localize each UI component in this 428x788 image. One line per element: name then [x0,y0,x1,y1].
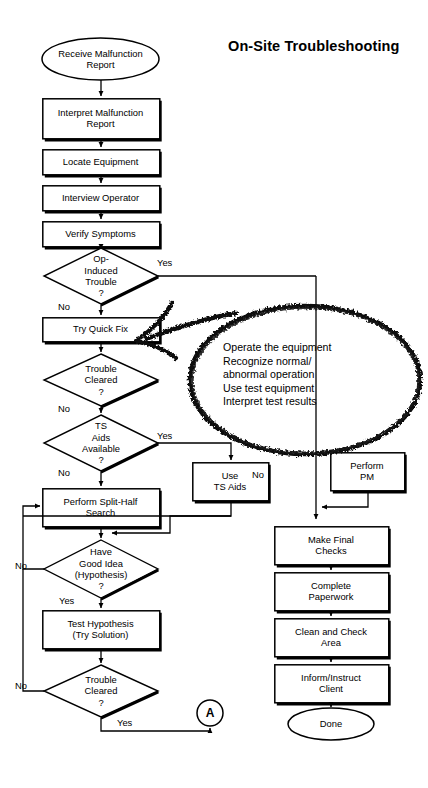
node-make-final-checks [275,527,390,567]
edge-label-op-yes: Yes [157,258,172,268]
edge-label-cleared2-no: No [15,681,27,691]
node-verify [43,222,161,249]
edge-label-goodidea-no: No [15,561,27,571]
node-start [42,38,159,80]
flowchart-canvas: On-Site Troubleshooting [0,0,428,788]
node-complete-paperwork [275,573,390,613]
node-have-good-idea [44,540,158,599]
node-ts-aids-available [44,415,158,472]
node-interpret [43,99,161,141]
node-inform-instruct-client [275,665,390,705]
node-clean-and-check-area [275,619,390,659]
node-trouble-cleared-2 [44,665,158,718]
node-trouble-cleared-1 [44,354,158,407]
node-perform-pm [331,453,406,493]
edge-label-tsaids-yes: Yes [157,431,172,441]
edge-label-goodidea-yes: Yes [59,596,74,606]
edge-label-cleared2-yes: Yes [117,718,132,728]
node-op-induced-trouble [44,248,158,305]
node-locate [43,150,161,177]
node-done [288,708,374,740]
edge-label-op-no: No [58,302,70,312]
edge-label-pm-no: No [252,470,264,480]
edge-label-tsaids-no: No [58,468,70,478]
node-perform-split-half-search [43,489,161,529]
edge-label-cleared1-no: No [58,404,70,414]
node-interview [43,186,161,213]
node-try-quick-fix [43,318,161,344]
handwritten-note-text: Operate the equipment Recognize normal/ … [223,341,413,409]
connector-a-label: A [200,706,220,720]
node-test-hypothesis [43,611,161,651]
